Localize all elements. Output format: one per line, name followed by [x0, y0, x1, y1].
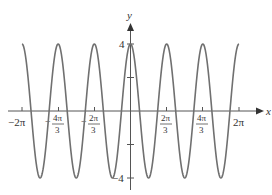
x-tick-label-4pi3: 4π 3 [196, 113, 208, 135]
svg-text:3: 3 [163, 125, 168, 135]
x-tick-label-2pi3: 2π 3 [160, 113, 172, 135]
svg-text:2π: 2π [161, 113, 171, 123]
svg-text:4π: 4π [197, 113, 207, 123]
svg-text:3: 3 [199, 125, 204, 135]
x-tick-label-2pi: 2π [233, 116, 245, 128]
x-tick-label-neg2pi: −2π [8, 116, 26, 128]
svg-text:2π: 2π [89, 113, 99, 123]
y-tick-label-4: 4 [119, 38, 125, 50]
x-axis-label: x [265, 105, 271, 117]
x-axis-arrow-icon [256, 108, 264, 115]
svg-text:4π: 4π [53, 113, 63, 123]
y-axis-label: y [126, 9, 132, 21]
cosine-graph: x y 4 −4 −2π − 4π 3 − 2π 3 2π 3 [0, 0, 272, 195]
svg-text:3: 3 [91, 125, 96, 135]
svg-text:3: 3 [55, 125, 60, 135]
y-axis-arrow-icon [127, 23, 134, 31]
